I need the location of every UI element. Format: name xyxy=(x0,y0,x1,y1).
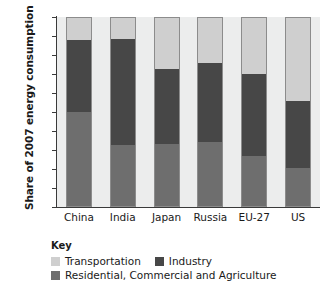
bar-segment[interactable] xyxy=(285,168,311,207)
legend-row-1: TransportationIndustry xyxy=(51,254,321,268)
legend-swatch-icon xyxy=(51,257,60,266)
stacked-bar-chart: Share of 2007 energy consumption 0%10%20… xyxy=(0,0,331,292)
bar-segment[interactable] xyxy=(66,17,92,40)
bar-segment[interactable] xyxy=(241,74,267,156)
bar-group xyxy=(110,17,136,207)
bar-segment[interactable] xyxy=(285,101,311,168)
stacked-bar[interactable] xyxy=(285,17,311,207)
y-axis-tick-labels: 0%10%20%30%40%50%60%70%80%90%100% xyxy=(0,0,52,292)
legend-item[interactable]: Residential, Commercial and Agriculture xyxy=(51,269,277,282)
stacked-bar[interactable] xyxy=(110,17,136,207)
bar-segment[interactable] xyxy=(110,17,136,39)
legend-row-2: Residential, Commercial and Agriculture xyxy=(51,268,321,282)
bar-segment[interactable] xyxy=(241,156,267,207)
bar-group xyxy=(241,17,267,207)
bar-segment[interactable] xyxy=(154,17,180,69)
legend-swatch-icon xyxy=(155,257,164,266)
bar-segment[interactable] xyxy=(197,63,223,143)
bar-group xyxy=(154,17,180,207)
bar-segment[interactable] xyxy=(197,142,223,207)
plot-area xyxy=(57,17,320,207)
stacked-bar[interactable] xyxy=(154,17,180,207)
bar-segment[interactable] xyxy=(197,17,223,63)
chart-legend: Key TransportationIndustry Residential, … xyxy=(51,240,321,282)
legend-label: Transportation xyxy=(65,255,141,268)
bar-group xyxy=(285,17,311,207)
x-axis-line xyxy=(56,207,320,208)
bar-segment[interactable] xyxy=(66,40,92,112)
legend-item[interactable]: Industry xyxy=(155,255,212,268)
bar-segment[interactable] xyxy=(110,145,136,207)
legend-title: Key xyxy=(51,240,321,252)
legend-label: Residential, Commercial and Agriculture xyxy=(65,269,277,282)
bar-segment[interactable] xyxy=(66,112,92,207)
stacked-bar[interactable] xyxy=(66,17,92,207)
bar-group xyxy=(197,17,223,207)
legend-item[interactable]: Transportation xyxy=(51,255,141,268)
plot-background xyxy=(57,17,320,207)
x-tick-label: US xyxy=(258,211,331,223)
bar-segment[interactable] xyxy=(110,39,136,145)
stacked-bar[interactable] xyxy=(197,17,223,207)
bar-segment[interactable] xyxy=(154,144,180,207)
bar-segment[interactable] xyxy=(154,69,180,144)
legend-swatch-icon xyxy=(51,271,60,280)
legend-label: Industry xyxy=(169,255,212,268)
stacked-bar[interactable] xyxy=(241,17,267,207)
bar-segment[interactable] xyxy=(285,17,311,101)
bar-group xyxy=(66,17,92,207)
bar-segment[interactable] xyxy=(241,17,267,74)
